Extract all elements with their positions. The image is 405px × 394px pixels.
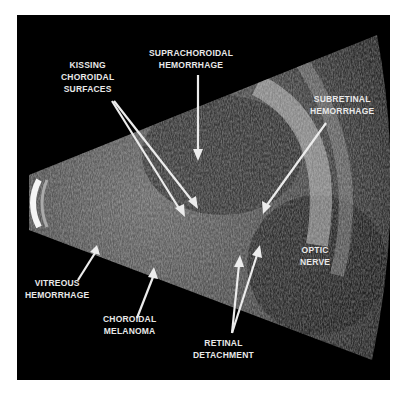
label-optic-nerve: OPTIC NERVE	[300, 244, 330, 268]
label-kissing-choroidal-surfaces: KISSING CHOROIDAL SURFACES	[61, 59, 114, 95]
ultrasound-figure: KISSING CHOROIDAL SURFACES SUPRACHOROIDA…	[17, 15, 390, 380]
label-subretinal-hemorrhage: SUBRETINAL HEMORRHAGE	[310, 93, 374, 117]
label-suprachoroidal-hemorrhage: SUPRACHOROIDAL HEMORRHAGE	[149, 47, 233, 71]
label-vitreous-hemorrhage: VITREOUS HEMORRHAGE	[25, 277, 89, 301]
label-retinal-detachment: RETINAL DETACHMENT	[193, 337, 254, 361]
label-choroidal-melanoma: CHOROIDAL MELANOMA	[103, 313, 156, 337]
